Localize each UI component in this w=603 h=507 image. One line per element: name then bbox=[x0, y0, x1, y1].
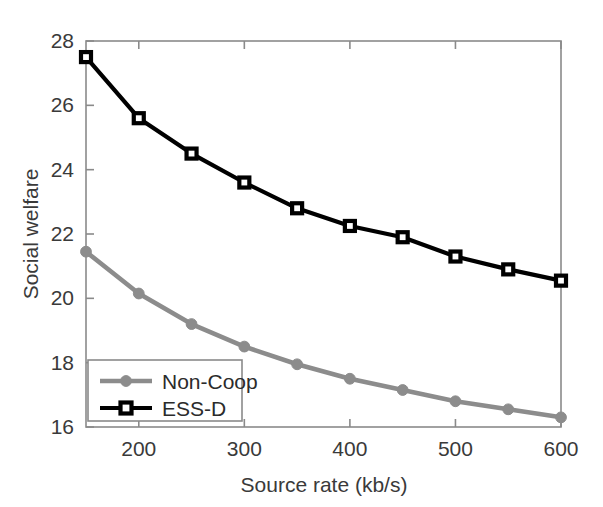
data-point-marker bbox=[292, 359, 303, 370]
series-ess-d bbox=[81, 52, 566, 286]
data-point-marker bbox=[121, 376, 132, 387]
data-point-marker bbox=[133, 288, 144, 299]
y-tick-label: 22 bbox=[51, 222, 74, 245]
y-tick-label: 18 bbox=[51, 351, 74, 374]
chart-canvas: 16182022242628 200300400500600 Social we… bbox=[0, 0, 603, 507]
y-axis-title: Social welfare bbox=[19, 169, 42, 300]
data-point-marker bbox=[450, 252, 460, 262]
data-point-marker bbox=[186, 319, 197, 330]
data-point-marker bbox=[121, 403, 132, 414]
x-tick-label: 300 bbox=[227, 437, 262, 460]
data-point-marker bbox=[187, 149, 197, 159]
legend-label: ESS-D bbox=[162, 397, 226, 420]
data-point-marker bbox=[292, 203, 302, 213]
data-point-marker bbox=[503, 264, 513, 274]
data-point-marker bbox=[503, 404, 514, 415]
x-tick-label: 500 bbox=[438, 437, 473, 460]
chart-legend: Non-CoopESS-D bbox=[88, 360, 258, 421]
data-point-marker bbox=[398, 232, 408, 242]
y-tick-label: 28 bbox=[51, 29, 74, 52]
data-point-marker bbox=[134, 113, 144, 123]
y-axis-tick-labels: 16182022242628 bbox=[51, 29, 75, 438]
data-point-marker bbox=[239, 178, 249, 188]
x-axis-tick-labels: 200300400500600 bbox=[121, 437, 578, 460]
data-point-marker bbox=[345, 221, 355, 231]
x-tick-label: 200 bbox=[121, 437, 156, 460]
data-point-marker bbox=[556, 276, 566, 286]
x-axis-title: Source rate (kb/s) bbox=[241, 473, 408, 496]
chart-figure: 16182022242628 200300400500600 Social we… bbox=[0, 0, 603, 507]
data-point-marker bbox=[450, 396, 461, 407]
y-tick-label: 16 bbox=[51, 415, 74, 438]
data-point-marker bbox=[556, 412, 567, 423]
x-tick-label: 400 bbox=[332, 437, 367, 460]
x-tick-label: 600 bbox=[543, 437, 578, 460]
y-tick-label: 26 bbox=[51, 93, 74, 116]
series-line bbox=[86, 57, 561, 281]
y-tick-label: 24 bbox=[51, 158, 75, 181]
legend-label: Non-Coop bbox=[162, 370, 258, 393]
data-point-marker bbox=[81, 246, 92, 257]
data-point-marker bbox=[81, 52, 91, 62]
data-point-marker bbox=[239, 341, 250, 352]
data-point-marker bbox=[397, 385, 408, 396]
y-tick-label: 20 bbox=[51, 286, 74, 309]
data-point-marker bbox=[344, 373, 355, 384]
